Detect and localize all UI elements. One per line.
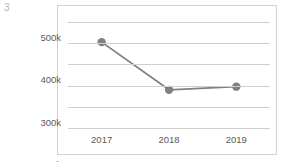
series-line — [102, 42, 237, 90]
y-axis-tick-label: 500k — [40, 33, 61, 43]
gridline: 0 — [68, 128, 270, 129]
page-number: 3 — [4, 2, 10, 14]
plot-area: 0100k200k300k400k500k201720182019 — [58, 6, 276, 154]
data-point-marker[interactable] — [165, 86, 173, 94]
x-axis-tick-label: 2017 — [91, 134, 112, 145]
x-axis-tick-label: 2018 — [158, 134, 179, 145]
y-axis-tick-label: 200k — [40, 160, 61, 162]
gridline: 100k — [68, 107, 270, 108]
x-axis-tick-label: 2019 — [226, 134, 247, 145]
gridline: 200k — [68, 86, 270, 87]
y-axis-tick-label: 300k — [40, 118, 61, 128]
data-point-marker[interactable] — [232, 82, 240, 90]
gridline: 300k — [68, 64, 270, 65]
gridline: 500k — [68, 22, 270, 23]
chart-container: 0100k200k300k400k500k201720182019 — [57, 5, 277, 155]
gridline: 400k — [68, 43, 270, 44]
y-axis-tick-label: 400k — [40, 75, 61, 85]
data-point-marker[interactable] — [97, 38, 105, 46]
